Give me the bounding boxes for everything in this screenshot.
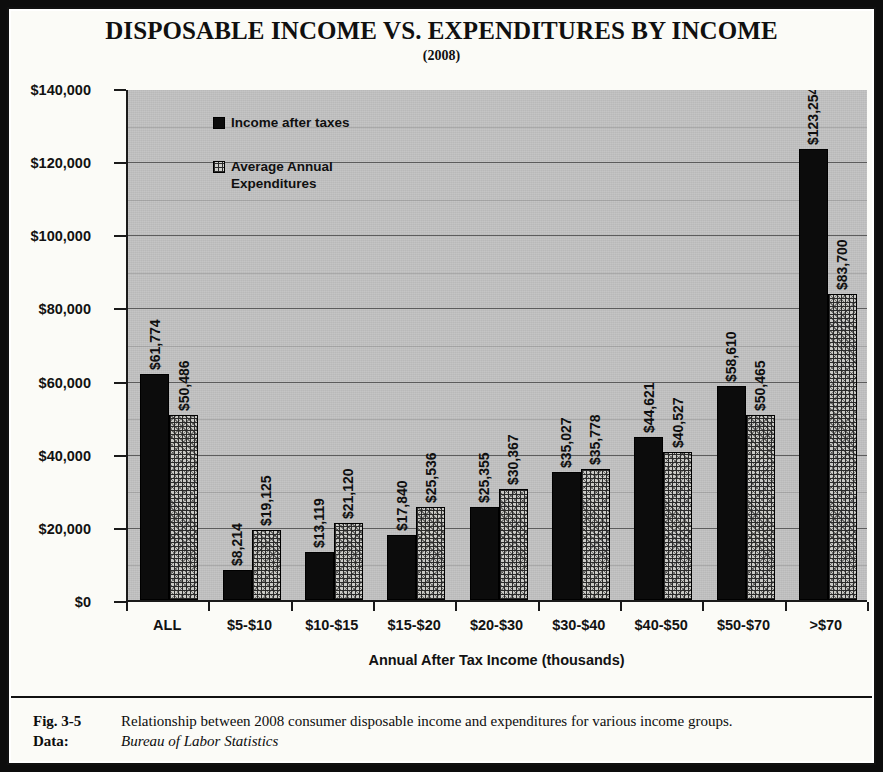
bar-income-after-taxes: $61,774: [140, 374, 169, 600]
y-axis-tick-mark: [114, 308, 126, 310]
bar-value-label: $83,700: [834, 239, 850, 290]
x-axis-tick-mark: [291, 602, 293, 611]
bar-average-annual-expenditures: $50,465: [746, 415, 775, 600]
y-axis-tick-label: $0: [75, 594, 91, 610]
bar-value-label: $44,621: [641, 382, 657, 433]
x-axis-tick-label: $40-$50: [635, 617, 688, 633]
legend-item-expenditures: Average Annual Expenditures: [213, 159, 350, 193]
y-axis-tick-mark: [114, 162, 126, 164]
bar-average-annual-expenditures: $83,700: [828, 294, 857, 600]
bar-income-after-taxes: $44,621: [634, 437, 663, 600]
legend-swatch-expenditures-icon: [213, 161, 225, 173]
y-axis-tick-label: $120,000: [31, 155, 91, 171]
bar-average-annual-expenditures: $40,527: [663, 452, 692, 600]
bar-average-annual-expenditures: $30,367: [499, 489, 528, 600]
x-axis-tick-label: $30-$40: [552, 617, 605, 633]
caption-figure-text: Relationship between 2008 consumer dispo…: [121, 712, 733, 732]
bar-value-label: $25,536: [423, 452, 439, 503]
x-axis-tick-label: $50-$70: [717, 617, 770, 633]
bar-value-label: $58,610: [723, 331, 739, 382]
y-axis-tick-label: $40,000: [39, 448, 91, 464]
y-axis-tick-label: $80,000: [39, 301, 91, 317]
bar-income-after-taxes: $8,214: [223, 570, 252, 600]
bar-income-after-taxes: $25,355: [470, 507, 499, 600]
caption-row-data: Data: Bureau of Labor Statistics: [33, 732, 858, 752]
y-axis-tick-mark: [114, 382, 126, 384]
plot-area: $61,774$50,486$8,214$19,125$13,119$21,12…: [126, 90, 867, 602]
y-axis-tick-label: $60,000: [39, 375, 91, 391]
bar-value-label: $17,840: [394, 480, 410, 531]
bar-value-label: $13,119: [311, 498, 327, 548]
x-axis-tick-mark: [373, 602, 375, 611]
x-axis-tick-mark: [126, 602, 128, 611]
legend-label-expenditures-line1: Average Annual: [231, 159, 333, 174]
figure-caption: Fig. 3-5 Relationship between 2008 consu…: [11, 696, 872, 761]
bar-value-label: $123,254: [805, 90, 821, 145]
y-axis-tick-mark: [114, 455, 126, 457]
caption-row-figure: Fig. 3-5 Relationship between 2008 consu…: [33, 712, 858, 732]
bar-income-after-taxes: $17,840: [387, 535, 416, 600]
chart-subtitle: (2008): [11, 48, 872, 64]
y-axis-tick-mark: [114, 601, 126, 603]
x-axis-tick-mark: [867, 602, 869, 611]
y-axis-tick-label: $100,000: [31, 228, 91, 244]
legend-item-income: Income after taxes: [213, 115, 350, 132]
bar-value-label: $50,465: [752, 361, 768, 412]
figure-inner-frame: DISPOSABLE INCOME VS. EXPENDITURES BY IN…: [7, 7, 876, 765]
chart-legend: Income after taxes Average Annual Expend…: [213, 115, 350, 220]
bar-income-after-taxes: $13,119: [305, 552, 334, 600]
bar-income-after-taxes: $35,027: [552, 472, 581, 600]
bar-value-label: $19,125: [258, 475, 274, 526]
legend-swatch-income-icon: [213, 117, 225, 129]
bar-average-annual-expenditures: $25,536: [416, 507, 445, 600]
y-axis-tick-label: $20,000: [39, 521, 91, 537]
x-axis-tick-mark: [208, 602, 210, 611]
bar-average-annual-expenditures: $19,125: [252, 530, 281, 600]
gridline: [128, 308, 867, 309]
x-axis-tick-label: $15-$20: [388, 617, 441, 633]
caption-figure-key: Fig. 3-5: [33, 712, 121, 732]
y-axis-tick-mark: [114, 235, 126, 237]
bar-average-annual-expenditures: $35,778: [581, 469, 610, 600]
bar-value-label: $30,367: [505, 434, 521, 485]
x-axis-tick-label: $20-$30: [470, 617, 523, 633]
x-axis-tick-mark: [538, 602, 540, 611]
y-axis-tick-mark: [114, 528, 126, 530]
x-axis-title: Annual After Tax Income (thousands): [126, 652, 867, 668]
y-axis-tick-label: $140,000: [31, 82, 91, 98]
bar-value-label: $40,527: [670, 397, 686, 448]
chart-title: DISPOSABLE INCOME VS. EXPENDITURES BY IN…: [11, 17, 872, 45]
legend-label-expenditures: Average Annual Expenditures: [231, 159, 333, 193]
caption-data-key: Data:: [33, 732, 121, 752]
bar-value-label: $25,355: [476, 453, 492, 504]
figure-outer-frame: DISPOSABLE INCOME VS. EXPENDITURES BY IN…: [0, 0, 883, 772]
y-axis-tick-mark: [114, 89, 126, 91]
x-axis-tick-mark: [702, 602, 704, 611]
bar-value-label: $8,214: [229, 523, 245, 566]
x-axis-tick-label: ALL: [153, 617, 181, 633]
x-axis-tick-mark: [455, 602, 457, 611]
bar-value-label: $35,027: [558, 417, 574, 468]
legend-label-income: Income after taxes: [231, 115, 350, 132]
bar-value-label: $61,774: [147, 319, 163, 370]
x-axis-tick-label: >$70: [809, 617, 842, 633]
legend-label-expenditures-line2: Expenditures: [231, 176, 317, 191]
x-axis-tick-mark: [785, 602, 787, 611]
x-axis-tick-label: $5-$10: [227, 617, 272, 633]
minor-gridline: [128, 346, 867, 347]
bar-value-label: $21,120: [340, 468, 356, 519]
figure-body: DISPOSABLE INCOME VS. EXPENDITURES BY IN…: [11, 11, 872, 761]
x-axis-tick-label: $10-$15: [305, 617, 358, 633]
bar-average-annual-expenditures: $50,486: [169, 415, 198, 600]
bar-income-after-taxes: $123,254: [799, 149, 828, 600]
bar-value-label: $35,778: [587, 415, 603, 466]
bar-income-after-taxes: $58,610: [717, 386, 746, 600]
bar-average-annual-expenditures: $21,120: [334, 523, 363, 600]
minor-gridline: [128, 273, 867, 274]
caption-data-text: Bureau of Labor Statistics: [121, 732, 278, 752]
bar-value-label: $50,486: [176, 361, 192, 412]
gridline: [128, 235, 867, 236]
x-axis-tick-mark: [620, 602, 622, 611]
